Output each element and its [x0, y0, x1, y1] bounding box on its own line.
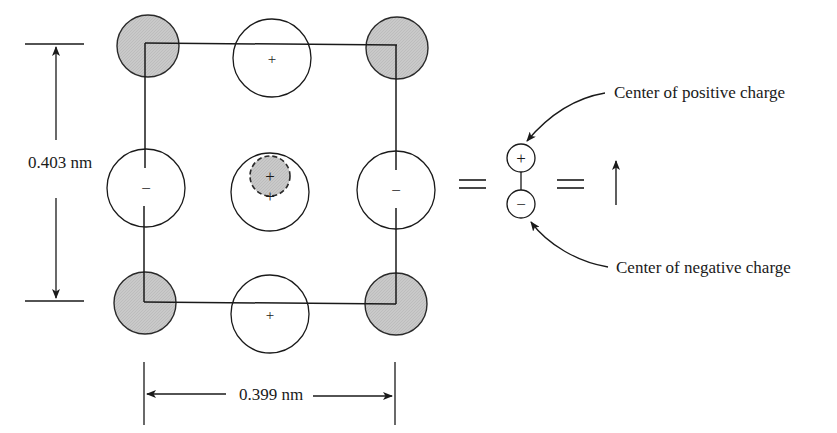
positive-sign: +	[516, 149, 526, 168]
leader-negative	[531, 222, 608, 267]
sign-left: −	[141, 179, 151, 198]
sign-center-outer: +	[265, 187, 275, 206]
frame-bottom	[144, 302, 396, 304]
leader-positive	[527, 93, 605, 141]
sign-center-inner: +	[265, 167, 275, 186]
corner-ion-bottom-left	[114, 272, 176, 334]
sign-right: −	[391, 181, 401, 200]
sign-top: +	[268, 51, 276, 67]
label-center-positive: Center of positive charge	[614, 83, 785, 102]
horizontal-dimension-label: 0.399 nm	[239, 385, 303, 404]
vertical-dimension-label: 0.403 nm	[28, 153, 92, 172]
dipole-symbol: + −	[507, 144, 535, 218]
polarization-diagram: 0.403 nm 0.399 nm + + − −	[0, 0, 837, 433]
horizontal-dimension: 0.399 nm	[144, 362, 395, 425]
corner-ion-top-left	[117, 15, 179, 77]
frame-top	[145, 43, 397, 45]
corner-ion-top-right	[366, 17, 428, 79]
vertical-dimension: 0.403 nm	[25, 44, 92, 301]
sign-bottom: +	[266, 307, 274, 323]
equals-sign-1	[459, 180, 486, 188]
equals-sign-2	[557, 180, 584, 188]
label-center-negative: Center of negative charge	[616, 258, 791, 277]
negative-sign: −	[516, 195, 526, 214]
